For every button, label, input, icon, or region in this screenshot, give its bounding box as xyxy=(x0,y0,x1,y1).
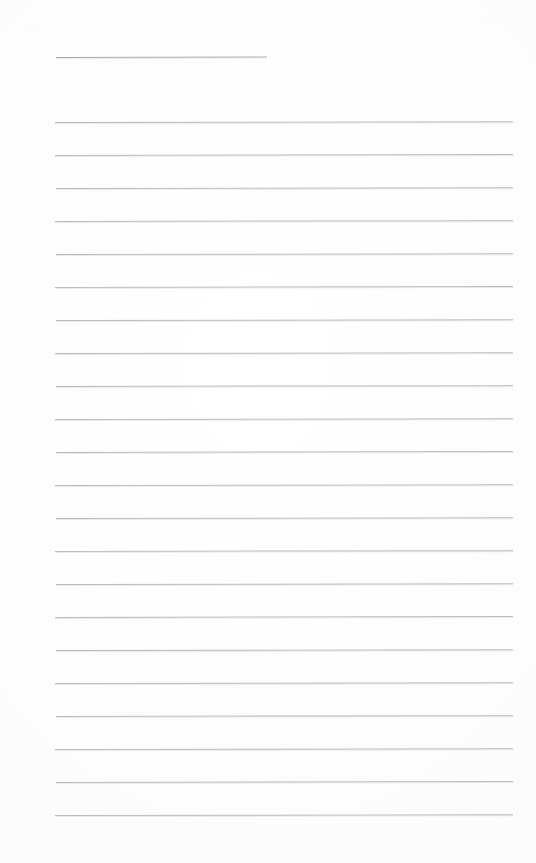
ruled-line-18 xyxy=(55,682,513,684)
title-underline-rule xyxy=(56,57,267,58)
ruled-line-10 xyxy=(55,418,513,420)
ruled-line-15 xyxy=(56,583,513,585)
ruled-line-1 xyxy=(55,121,513,123)
ruled-line-11 xyxy=(56,451,513,453)
ruled-line-14 xyxy=(55,550,513,552)
ruled-line-7 xyxy=(56,319,513,321)
ruled-line-5 xyxy=(56,253,513,255)
ruled-line-21 xyxy=(56,781,513,783)
ruled-line-22 xyxy=(55,814,513,816)
ruled-line-13 xyxy=(56,517,513,519)
ruled-line-2 xyxy=(55,154,513,156)
ruled-line-4 xyxy=(55,220,513,222)
ruled-line-19 xyxy=(56,715,513,717)
ruled-line-3 xyxy=(56,187,513,189)
ruled-lines-layer xyxy=(0,0,536,863)
ruled-line-6 xyxy=(55,286,513,288)
ruled-line-20 xyxy=(55,748,513,750)
ruled-line-9 xyxy=(56,385,513,387)
ruled-line-8 xyxy=(55,352,513,354)
ruled-line-12 xyxy=(55,484,513,486)
ruled-line-16 xyxy=(55,616,513,618)
ruled-line-17 xyxy=(56,649,513,651)
scanned-paper-page xyxy=(0,0,536,863)
